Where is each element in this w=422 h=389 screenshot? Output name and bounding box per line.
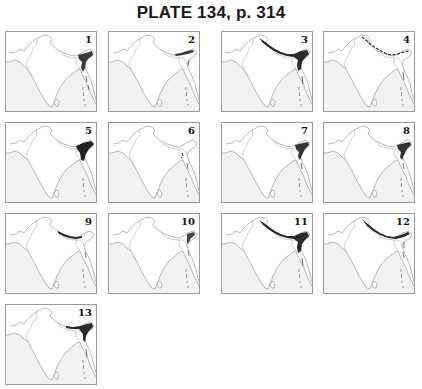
south-asia-map xyxy=(222,123,313,203)
south-asia-map xyxy=(324,123,415,203)
south-asia-map xyxy=(6,123,97,203)
map-panel-4: 4 xyxy=(323,31,415,112)
map-number: 1 xyxy=(85,34,92,45)
south-asia-map xyxy=(109,123,200,203)
map-number: 6 xyxy=(188,125,195,136)
map-panel-3: 3 xyxy=(221,31,313,112)
map-panel-7: 7 xyxy=(221,122,313,203)
map-panel-9: 9 xyxy=(5,213,97,294)
map-number: 13 xyxy=(78,307,92,318)
map-number: 8 xyxy=(403,125,410,136)
map-panel-8: 8 xyxy=(323,122,415,203)
map-number: 12 xyxy=(396,216,410,227)
map-number: 2 xyxy=(188,34,195,45)
south-asia-map xyxy=(222,32,313,112)
south-asia-map xyxy=(6,214,97,294)
map-number: 7 xyxy=(301,125,308,136)
map-number: 9 xyxy=(85,216,92,227)
south-asia-map xyxy=(109,32,200,112)
south-asia-map xyxy=(6,32,97,112)
distribution-range xyxy=(362,37,409,80)
map-number: 5 xyxy=(85,125,92,136)
map-panel-6: 6 xyxy=(108,122,200,203)
map-number: 11 xyxy=(294,216,308,227)
map-number: 4 xyxy=(403,34,410,45)
map-panel-12: 12 xyxy=(323,213,415,294)
map-number: 10 xyxy=(181,216,195,227)
map-panel-1: 1 xyxy=(5,31,97,112)
plate-title: PLATE 134, p. 314 xyxy=(0,3,422,23)
map-number: 3 xyxy=(301,34,308,45)
map-panel-11: 11 xyxy=(221,213,313,294)
map-panel-5: 5 xyxy=(5,122,97,203)
map-panel-13: 13 xyxy=(5,304,97,385)
map-panel-10: 10 xyxy=(108,213,200,294)
south-asia-map xyxy=(324,32,415,112)
map-panel-2: 2 xyxy=(108,31,200,112)
